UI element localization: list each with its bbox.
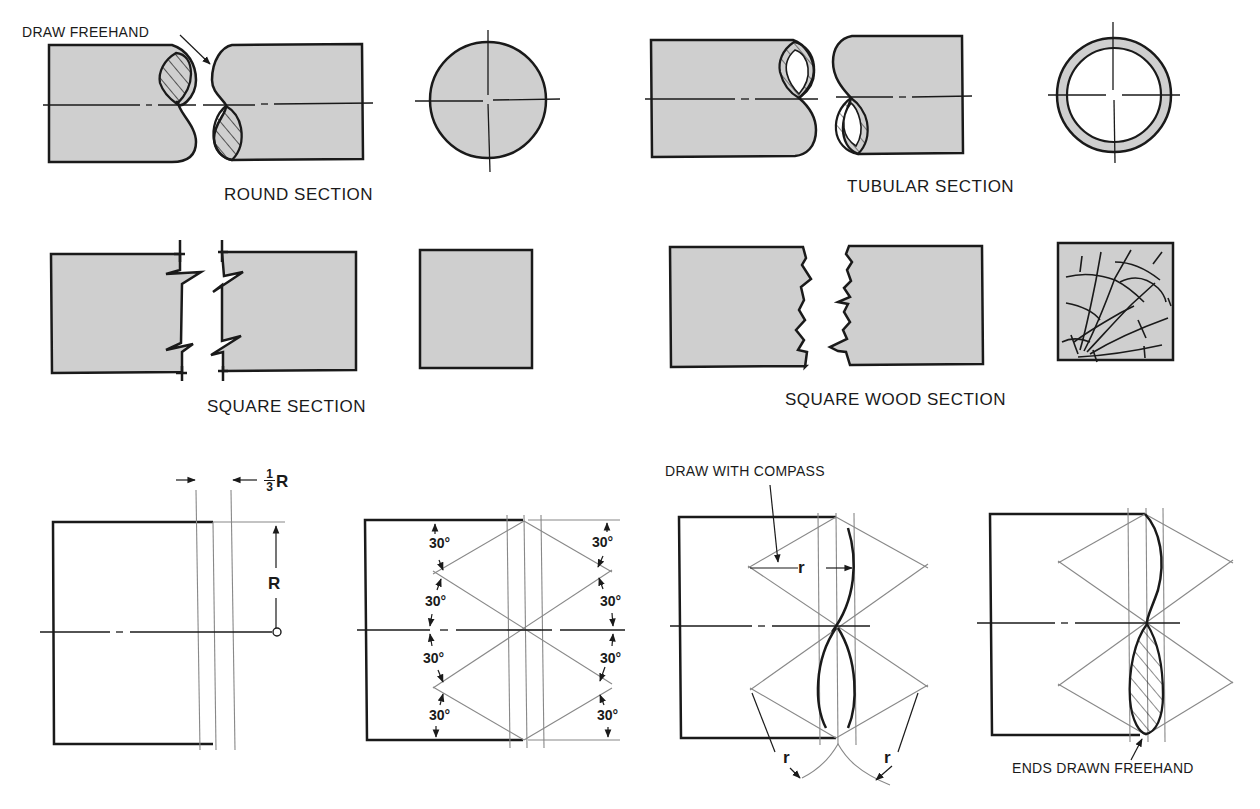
- conventional-break-drawing: [0, 0, 1260, 809]
- radius-label-R: R: [268, 574, 281, 594]
- construction-step-1: [40, 480, 285, 750]
- construction-step-2: [357, 515, 625, 748]
- step4-hatched-lobe: [1130, 624, 1163, 734]
- wood-end-grain-view: [1058, 243, 1173, 362]
- tubular-section-caption: TUBULAR SECTION: [847, 177, 1014, 197]
- construction-step-4: [977, 508, 1233, 760]
- square-wood-section-caption: SQUARE WOOD SECTION: [785, 390, 1006, 410]
- angle-label-right-2: 30°: [600, 593, 621, 609]
- compass-radius-label-3: r: [884, 748, 891, 768]
- angle-label-left-4: 30°: [429, 707, 450, 723]
- construction-step-3: [670, 485, 928, 785]
- angle-label-left-2: 30°: [425, 593, 446, 609]
- tubular-section-break: [645, 36, 972, 157]
- square-section-break: [51, 240, 356, 381]
- angle-label-left-3: 30°: [423, 650, 444, 666]
- angle-label-right-1: 30°: [592, 534, 613, 550]
- square-wood-section-break: [670, 246, 983, 367]
- draw-with-compass-callout: DRAW WITH COMPASS: [665, 463, 825, 479]
- angle-label-right-4: 30°: [597, 707, 618, 723]
- ends-drawn-freehand-callout: ENDS DRAWN FREEHAND: [1012, 760, 1194, 776]
- offset-radius-suffix: R: [276, 472, 289, 492]
- angle-label-left-1: 30°: [429, 535, 450, 551]
- round-section-break: [43, 35, 373, 162]
- tubular-end-view: [1048, 22, 1180, 163]
- square-end-view: [420, 250, 532, 368]
- angle-label-right-3: 30°: [600, 650, 621, 666]
- one-third-fraction: 1 3: [264, 469, 275, 493]
- compass-radius-label-1: r: [798, 558, 805, 578]
- round-section-caption: ROUND SECTION: [224, 185, 373, 205]
- compass-radius-label-2: r: [783, 748, 790, 768]
- round-end-view: [415, 30, 560, 172]
- square-section-caption: SQUARE SECTION: [207, 397, 366, 417]
- draw-freehand-callout: DRAW FREEHAND: [22, 24, 149, 40]
